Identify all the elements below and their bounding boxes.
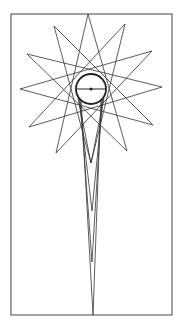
star-edge bbox=[27, 54, 127, 151]
star-diagram bbox=[0, 0, 183, 332]
spike-v bbox=[81, 98, 101, 315]
spike-v bbox=[79, 98, 103, 211]
frame-border bbox=[11, 14, 172, 315]
circle-center-dot bbox=[89, 87, 92, 90]
star-edge bbox=[54, 26, 153, 125]
star-edge bbox=[56, 51, 152, 153]
